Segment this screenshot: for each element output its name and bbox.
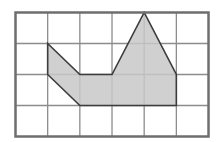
grid-diagram xyxy=(0,0,219,142)
